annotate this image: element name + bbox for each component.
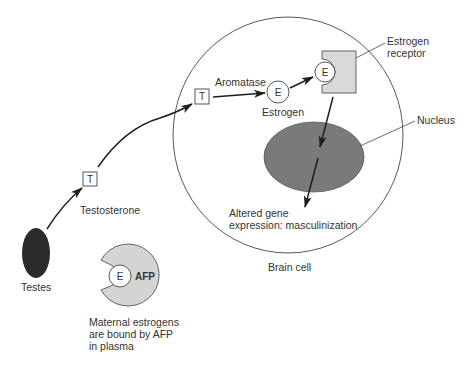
estrogen-glyph: E: [275, 87, 282, 98]
brain-cell-label: Brain cell: [268, 261, 311, 273]
nucleus-leader-line: [360, 121, 415, 146]
afp-estrogen-glyph: E: [117, 271, 124, 282]
receptor-estrogen-glyph: E: [322, 67, 329, 78]
testosterone-glyph-2: T: [199, 91, 205, 102]
estrogen-label: Estrogen: [262, 106, 304, 118]
testes-label: Testes: [21, 281, 51, 293]
arrow-testosterone-to-brain: [98, 104, 192, 167]
estrogen-receptor-label-line1: Estrogen: [387, 35, 429, 47]
maternal-note-line1: Maternal estrogens: [89, 316, 179, 328]
nucleus-shape: [264, 122, 364, 192]
testosterone-glyph-1: T: [87, 174, 93, 185]
maternal-note-line2: are bound by AFP: [89, 328, 179, 340]
arrow-estrogen-to-receptor: [290, 77, 313, 88]
afp-glyph: AFP: [135, 271, 155, 282]
estrogen-receptor-label-line2: receptor: [387, 47, 429, 59]
estrogen-receptor-label: Estrogen receptor: [387, 35, 429, 59]
gene-expression-line2: expression: masculinization: [229, 219, 357, 231]
maternal-estrogens-note: Maternal estrogens are bound by AFP in p…: [89, 316, 179, 352]
nucleus-label: Nucleus: [417, 114, 455, 126]
arrow-testes-to-testosterone: [47, 188, 82, 229]
testosterone-label: Testosterone: [80, 204, 140, 216]
gene-expression-label: Altered gene expression: masculinization: [229, 207, 357, 231]
gene-expression-line1: Altered gene: [229, 207, 357, 219]
aromatase-label: Aromatase: [215, 76, 266, 88]
testes-shape: [22, 228, 50, 278]
arrow-aromatase: [213, 93, 265, 97]
maternal-note-line3: in plasma: [89, 340, 179, 352]
receptor-leader-line: [356, 43, 385, 58]
